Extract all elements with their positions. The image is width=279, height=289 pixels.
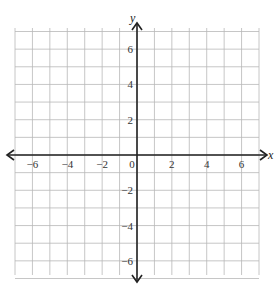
x-tick-label: 4: [204, 158, 210, 170]
y-tick-label: 2: [128, 114, 134, 126]
x-tick-label: −2: [96, 158, 108, 170]
x-tick-label: −6: [27, 158, 39, 170]
y-tick-label: 4: [128, 78, 134, 90]
y-tick-label: 6: [128, 43, 134, 55]
y-axis-label: y: [129, 11, 136, 25]
x-tick-label: 2: [169, 158, 175, 170]
x-tick-label: 0: [129, 158, 135, 170]
x-tick-label: −4: [61, 158, 73, 170]
y-tick-label: −4: [121, 220, 133, 232]
y-tick-label: −2: [121, 184, 133, 196]
x-axis-label: x: [267, 148, 274, 162]
y-tick-label: −6: [121, 255, 133, 267]
x-tick-label: 6: [239, 158, 245, 170]
coordinate-plane: −6−4−20246642−2−4−6 x y: [0, 0, 279, 289]
